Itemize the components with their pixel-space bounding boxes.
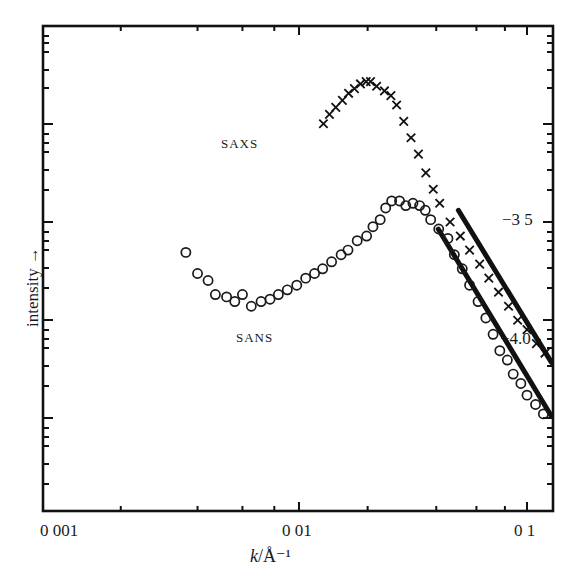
fit-lines <box>438 210 551 416</box>
sans-data-point <box>481 313 490 322</box>
x-axis-unit: /Å⁻¹ <box>258 546 291 566</box>
sans-data-point <box>181 248 190 257</box>
saxs-label: SAXS <box>221 136 258 152</box>
saxs-data-point <box>504 302 512 310</box>
x-tick-label-0.1: 0 1 <box>514 521 535 541</box>
sans-data-point <box>301 274 310 283</box>
saxs-data-point <box>414 150 422 158</box>
sans-data-point <box>362 231 371 240</box>
sans-data-point <box>488 330 497 339</box>
sans-data-point <box>368 222 377 231</box>
saxs-data-point <box>475 260 483 268</box>
sans-data-point <box>274 290 283 299</box>
x-tick-label-0.001: 0 001 <box>40 521 78 541</box>
saxs-data-point <box>350 84 358 92</box>
saxs-data-point <box>494 288 502 296</box>
x-tick-label-0.01: 0 01 <box>282 521 312 541</box>
sans-fit-line <box>438 229 551 416</box>
sans-data-point <box>238 290 247 299</box>
sans-data-point <box>426 215 435 224</box>
sans-data-point <box>211 290 220 299</box>
x-axis-label: k/Å⁻¹ <box>250 545 291 567</box>
sans-data-point <box>230 297 239 306</box>
sans-data-point <box>531 400 540 409</box>
saxs-data-point <box>407 134 415 142</box>
saxs-data-point <box>456 232 464 240</box>
sans-data-point <box>292 281 301 290</box>
saxs-data-point <box>446 218 454 226</box>
sans-data-point <box>256 297 265 306</box>
saxs-data-point <box>372 82 380 90</box>
sans-data-point <box>203 276 212 285</box>
x-axis-variable: k <box>250 546 258 566</box>
sans-data-point <box>522 391 531 400</box>
sans-data-point <box>327 257 336 266</box>
sans-series <box>181 196 548 418</box>
saxs-data-point <box>392 101 400 109</box>
sans-data-point <box>193 269 202 278</box>
plot-area <box>0 0 569 588</box>
saxs-data-point <box>435 199 443 207</box>
sans-data-point <box>376 215 385 224</box>
saxs-data-point <box>485 274 493 282</box>
sans-data-point <box>353 236 362 245</box>
saxs-data-point <box>465 246 473 254</box>
saxs-data-point <box>366 77 374 85</box>
y-axis-label: intensity → <box>23 227 43 347</box>
saxs-data-point <box>429 185 437 193</box>
saxs-data-point <box>319 120 327 128</box>
saxs-data-point <box>422 169 430 177</box>
sans-label: SANS <box>236 330 273 346</box>
sans-data-point <box>247 302 256 311</box>
sans-data-point <box>343 245 352 254</box>
saxs-data-point <box>400 117 408 125</box>
saxs-data-point <box>513 316 521 324</box>
sans-data-point <box>503 355 512 364</box>
right-axis-label-4-0: −4.0 <box>500 329 531 349</box>
sans-data-point <box>283 285 292 294</box>
sans-data-point <box>509 370 518 379</box>
sans-data-point <box>516 379 525 388</box>
right-axis-label-3-5: −3 5 <box>502 210 533 230</box>
sans-data-point <box>318 264 327 273</box>
